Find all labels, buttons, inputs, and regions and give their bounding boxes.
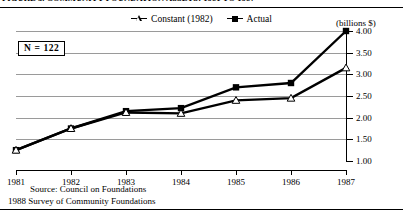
legend-label-actual: Actual (247, 14, 272, 24)
y-axis-label: 1.00 (356, 156, 372, 166)
y-axis-label: 2.00 (356, 113, 372, 123)
y-axis-tick (347, 53, 353, 54)
x-axis-tick (126, 170, 127, 175)
y-axis-tick (347, 118, 353, 119)
source-line-1: Source: Council on Foundations (8, 184, 308, 196)
sample-size-badge: N = 122 (18, 41, 65, 56)
y-axis-label: 3.50 (356, 48, 372, 58)
y-axis-label: 1.50 (356, 134, 372, 144)
triangle-open-marker-icon (131, 14, 147, 23)
data-point-marker (288, 80, 294, 86)
series-line-actual (16, 31, 346, 150)
x-axis-tick (346, 170, 347, 175)
plot-area: 1.001.502.002.503.003.504.00 (16, 31, 346, 161)
figure-title-clipped: FIGURE 3. COMMUNITY FOUNDATION ASSETS: 1… (0, 0, 403, 7)
x-axis-tick (71, 170, 72, 175)
y-axis-label: 3.00 (356, 69, 372, 79)
x-axis-tick (181, 170, 182, 175)
legend-label-constant: Constant (1982) (151, 14, 212, 24)
top-rule (0, 7, 403, 8)
data-point-marker (233, 84, 239, 90)
x-axis-label: 1987 (337, 177, 355, 187)
x-axis-tick (291, 170, 292, 175)
square-filled-marker-icon (227, 14, 243, 23)
source-note: Source: Council on Foundations 1988 Surv… (8, 184, 308, 207)
figure-container: FIGURE 3. COMMUNITY FOUNDATION ASSETS: 1… (0, 0, 403, 218)
y-axis-label: 2.50 (356, 91, 372, 101)
data-point-marker (343, 28, 349, 34)
y-axis-tick (347, 139, 353, 140)
figure-title: FIGURE 3. COMMUNITY FOUNDATION ASSETS: 1… (2, 0, 255, 3)
y-axis-tick (347, 96, 353, 97)
legend-item-actual: Actual (227, 14, 272, 24)
y-axis-tick (347, 74, 353, 75)
bottom-rule (0, 209, 403, 210)
data-series-lines (16, 31, 346, 162)
x-axis-tick (16, 170, 17, 175)
source-line-2: 1988 Survey of Community Foundations (8, 196, 308, 208)
y-axis-tick (347, 161, 353, 162)
data-point-marker (342, 64, 350, 71)
y-axis-label: 4.00 (356, 26, 372, 36)
legend-item-constant: Constant (1982) (131, 14, 212, 24)
x-axis-tick (236, 170, 237, 175)
